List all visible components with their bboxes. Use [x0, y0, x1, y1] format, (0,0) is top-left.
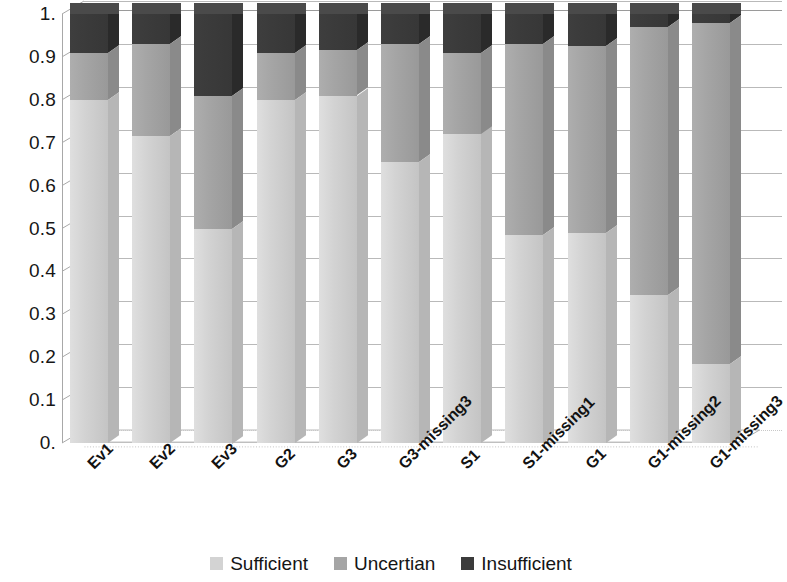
bar-segment[interactable] — [70, 53, 108, 100]
bar-segment-side-face — [232, 221, 243, 443]
legend-swatch — [461, 557, 474, 570]
bar-segment[interactable] — [568, 46, 606, 233]
bar-top-face — [319, 3, 357, 14]
bar-segment[interactable] — [132, 44, 170, 136]
bar-segment[interactable] — [319, 96, 357, 443]
bar-segment[interactable] — [630, 295, 668, 443]
bar-segment[interactable] — [70, 14, 108, 53]
bar-segment[interactable] — [381, 44, 419, 162]
bar[interactable] — [319, 14, 357, 443]
y-axis-tick-label: 0.9 — [4, 47, 56, 66]
plot-area — [62, 0, 782, 460]
bar-segment[interactable] — [381, 14, 419, 44]
legend-label: Insufficient — [481, 554, 571, 573]
bar[interactable] — [381, 14, 419, 443]
bar-segment-side-face — [419, 154, 430, 443]
legend-item[interactable]: Sufficient — [210, 554, 308, 573]
bar-segment[interactable] — [381, 162, 419, 443]
legend-item[interactable]: Uncertian — [334, 554, 435, 573]
bar-top-face — [443, 3, 481, 14]
bar-segment-side-face — [668, 19, 679, 295]
bar-group — [62, 0, 782, 460]
bar-segment[interactable] — [692, 14, 730, 23]
bar-top-face-skew — [419, 3, 431, 15]
x-axis-tick-label: G2 — [271, 445, 299, 473]
bar-segment-side-face — [170, 129, 181, 443]
bar-top-face-skew — [730, 3, 742, 15]
bar[interactable] — [692, 14, 730, 443]
bar-segment-side-face — [543, 227, 554, 443]
bar[interactable] — [70, 14, 108, 443]
x-axis-labels: Ev1Ev2Ev3G2G3G3-missing3S1S1-missing1G1G… — [62, 446, 782, 556]
bar-top-face-skew — [543, 3, 555, 15]
bar-top-face — [692, 3, 730, 14]
bar-segment[interactable] — [692, 23, 730, 364]
bar-segment[interactable] — [319, 50, 357, 95]
bar-top-face-skew — [170, 3, 182, 15]
bar[interactable] — [443, 14, 481, 443]
y-axis-tick-label: 0.6 — [4, 176, 56, 195]
bar-segment[interactable] — [505, 235, 543, 443]
bar-top-face-skew — [232, 3, 244, 15]
bar-segment-side-face — [232, 88, 243, 229]
bar[interactable] — [132, 14, 170, 443]
legend-label: Uncertian — [354, 554, 435, 573]
bar-top-face — [194, 3, 232, 14]
y-axis-tick-label: 0.3 — [4, 304, 56, 323]
bar-segment-side-face — [295, 92, 306, 443]
bar-top-face-skew — [606, 3, 618, 15]
bar-top-face-skew — [481, 3, 493, 15]
bar-segment-side-face — [668, 287, 679, 443]
bar-segment[interactable] — [132, 136, 170, 443]
bar-top-face-skew — [295, 3, 307, 15]
bar-top-face — [505, 3, 543, 14]
chart-legend: SufficientUncertianInsufficient — [0, 554, 782, 573]
y-axis-tick-label: 0.7 — [4, 133, 56, 152]
bar-segment-side-face — [606, 38, 617, 232]
bar-segment-side-face — [357, 43, 368, 96]
x-axis-tick-label: S1 — [457, 446, 484, 473]
bar-segment[interactable] — [257, 14, 295, 53]
bar-segment-side-face — [606, 225, 617, 443]
bar-segment[interactable] — [257, 100, 295, 443]
legend-label: Sufficient — [230, 554, 308, 573]
bar-top-face — [257, 3, 295, 14]
legend-swatch — [334, 557, 347, 570]
bar[interactable] — [194, 14, 232, 443]
bar-segment[interactable] — [70, 100, 108, 443]
bar-segment-side-face — [232, 6, 243, 95]
y-axis-tick-label: 0.5 — [4, 219, 56, 238]
bar-segment[interactable] — [568, 14, 606, 46]
bar-top-face — [568, 3, 606, 14]
y-axis-tick-label: 0.1 — [4, 390, 56, 409]
bar-segment[interactable] — [132, 14, 170, 44]
bar-segment[interactable] — [194, 14, 232, 96]
bar-segment[interactable] — [630, 27, 668, 295]
bar-top-face — [381, 3, 419, 14]
bar-segment[interactable] — [630, 14, 668, 27]
bar-segment-side-face — [481, 126, 492, 443]
bar-segment[interactable] — [194, 96, 232, 229]
bar-segment[interactable] — [505, 14, 543, 44]
bar-top-face-skew — [357, 3, 369, 15]
bar-segment-side-face — [419, 36, 430, 162]
legend-item[interactable]: Insufficient — [461, 554, 571, 573]
bar-segment[interactable] — [319, 14, 357, 50]
bar-segment-side-face — [730, 15, 741, 364]
bar[interactable] — [257, 14, 295, 443]
bar-segment[interactable] — [505, 44, 543, 235]
bar-segment[interactable] — [194, 229, 232, 444]
y-axis-tick-label: 1. — [4, 4, 56, 23]
bar-segment[interactable] — [443, 53, 481, 135]
bar-top-face — [132, 3, 170, 14]
bar-segment[interactable] — [257, 53, 295, 100]
bar[interactable] — [630, 14, 668, 443]
y-axis-tick-label: 0.8 — [4, 90, 56, 109]
y-axis-tick-label: 0. — [4, 433, 56, 452]
y-axis-tick-label: 0.2 — [4, 347, 56, 366]
bar-segment-side-face — [357, 88, 368, 443]
bar[interactable] — [568, 14, 606, 443]
bar-segment[interactable] — [443, 14, 481, 53]
bar[interactable] — [505, 14, 543, 443]
